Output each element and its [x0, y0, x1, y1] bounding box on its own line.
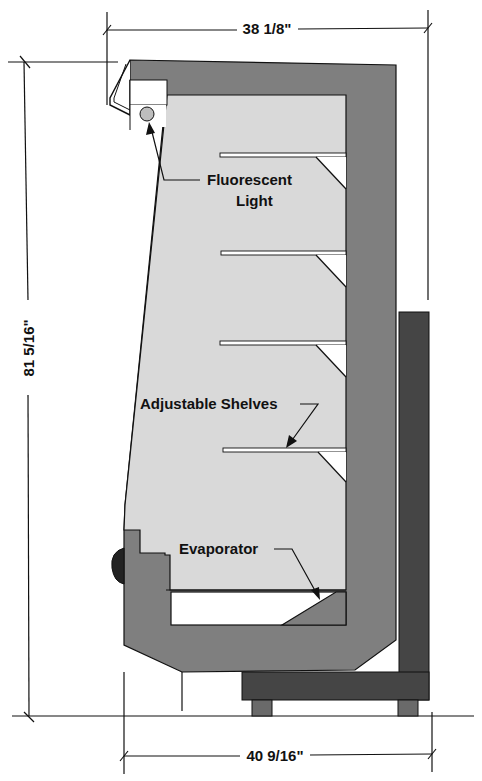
fluorescent-label-line2: Light: [236, 192, 273, 209]
height-label: 81 5/16": [20, 319, 37, 376]
fluorescent-label-line1: Fluorescent: [207, 171, 292, 188]
top-width-label: 38 1/8": [243, 20, 292, 37]
foot-front: [252, 700, 272, 716]
dimension-height: 81 5/16": [8, 56, 118, 722]
display-case-diagram: 38 1/8" 81 5/16" 40 9/16": [0, 0, 482, 781]
fluorescent-light: [140, 107, 154, 121]
adjustable-shelves-label: Adjustable Shelves: [140, 395, 278, 412]
evaporator-label: Evaporator: [179, 540, 258, 557]
front-bumper: [112, 548, 124, 584]
foot-rear: [398, 700, 418, 716]
bottom-width-label: 40 9/16": [246, 747, 303, 764]
